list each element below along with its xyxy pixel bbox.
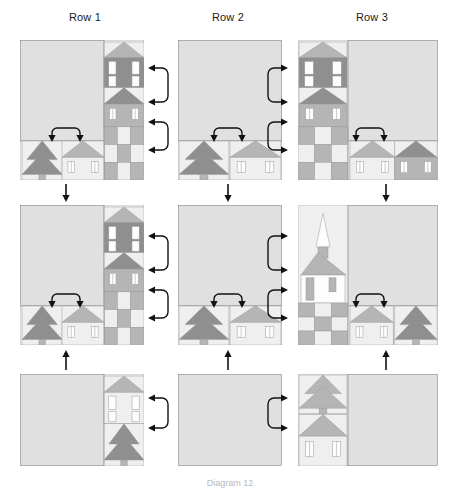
quilt-block-r1-b1	[20, 40, 144, 180]
assembly-arrow-down	[60, 184, 72, 204]
quilt-block-r3-b1	[298, 40, 438, 180]
seam-join-arrow	[210, 290, 246, 310]
swap-arrow-left	[146, 61, 170, 109]
seam-join-arrow	[352, 290, 388, 310]
column-header-row-1: Row 1	[45, 11, 125, 23]
seam-join-arrow	[210, 124, 246, 144]
assembly-arrow-down	[222, 184, 234, 204]
swap-arrow-right	[266, 115, 290, 157]
quilt-block-r3-b2	[298, 205, 438, 345]
assembly-arrow-up	[380, 350, 392, 372]
swap-arrow-left	[146, 229, 170, 277]
quilt-block-r3-b3	[298, 374, 438, 466]
seam-join-arrow	[352, 124, 388, 144]
figure-caption: Diagram 12	[178, 478, 282, 488]
assembly-arrow-up	[60, 350, 72, 372]
quilt-block-r1-b3	[20, 374, 144, 466]
swap-arrow-left	[146, 115, 170, 157]
quilt-assembly-diagram: Row 1Row 2Row 3Diagram 12	[0, 0, 457, 489]
swap-arrow-right	[266, 391, 290, 435]
assembly-arrow-up	[222, 350, 234, 372]
swap-arrow-right	[266, 283, 290, 325]
swap-arrow-right	[266, 229, 290, 277]
column-header-row-3: Row 3	[332, 11, 412, 23]
swap-arrow-left	[146, 391, 170, 435]
quilt-block-r1-b2	[20, 205, 144, 345]
swap-arrow-left	[146, 283, 170, 325]
seam-join-arrow	[48, 290, 84, 310]
column-header-row-2: Row 2	[188, 11, 268, 23]
seam-join-arrow	[48, 124, 84, 144]
swap-arrow-right	[266, 61, 290, 109]
assembly-arrow-down	[380, 184, 392, 204]
